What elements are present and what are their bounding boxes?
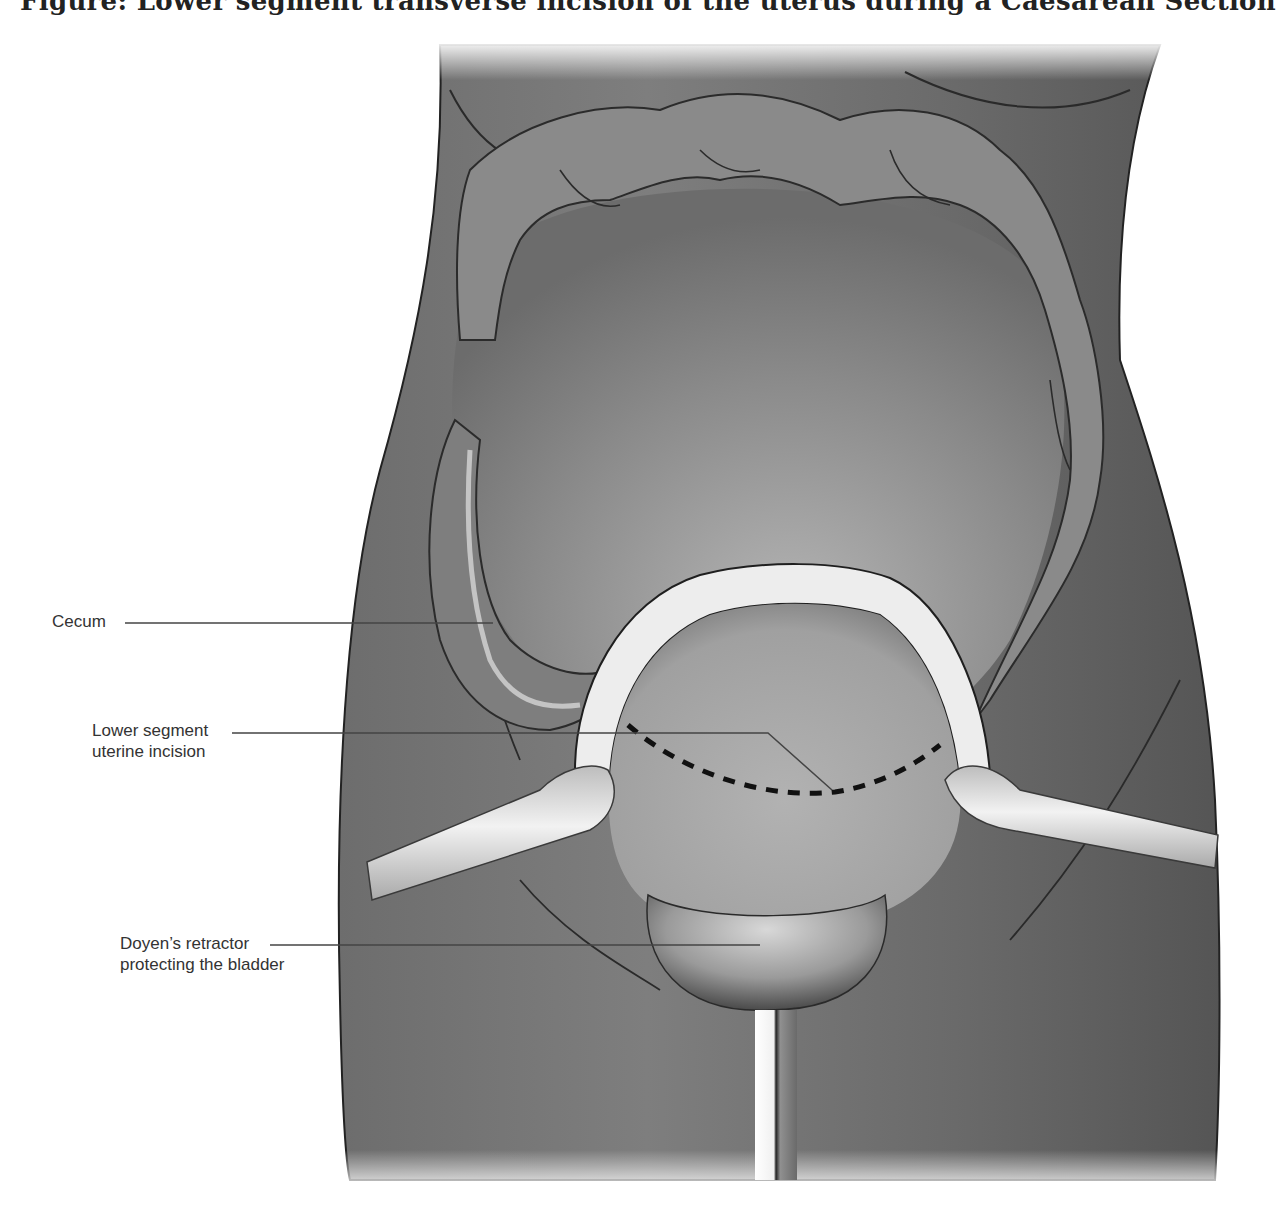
label-incision: Lower segment uterine incision [92, 720, 208, 762]
retractor-handle [755, 1010, 797, 1180]
label-retractor: Doyen’s retractor protecting the bladder [120, 933, 284, 975]
uterus [609, 604, 961, 932]
label-cecum: Cecum [52, 611, 106, 632]
